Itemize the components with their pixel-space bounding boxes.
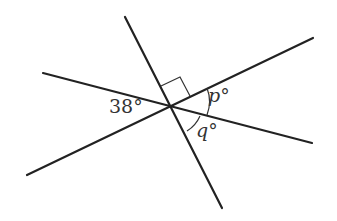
angles-diagram: 38° p° q° xyxy=(0,0,337,221)
diagram-canvas xyxy=(0,0,337,221)
label-38-degrees: 38° xyxy=(109,97,143,116)
right-angle-marker xyxy=(161,77,190,96)
label-angle-p: p° xyxy=(208,86,230,105)
label-angle-q: q° xyxy=(196,121,218,140)
line-2 xyxy=(43,73,312,143)
